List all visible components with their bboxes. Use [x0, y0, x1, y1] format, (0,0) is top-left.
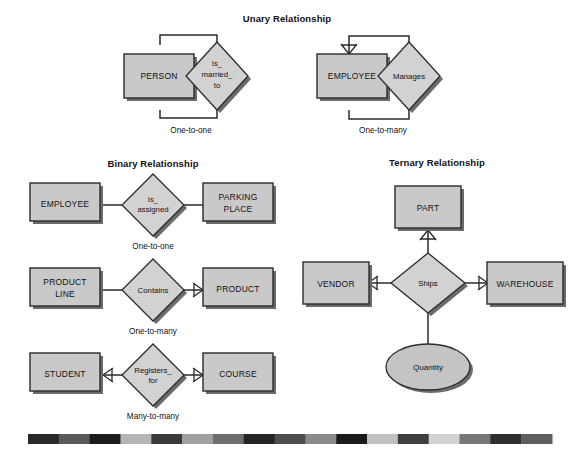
entity-parking-place-label-1: PARKING [218, 192, 257, 202]
color-strip-segment [28, 434, 59, 444]
cardinality-productline-product: One-to-many [129, 327, 178, 336]
registers-for-line-2: for [148, 376, 158, 385]
unary-example-person: PERSON Is_ married_ to One-to-one [124, 35, 251, 135]
unary-loop-bottom-person [160, 100, 217, 118]
section-title-ternary: Ternary Relationship [389, 157, 485, 168]
entity-part-label: PART [417, 203, 440, 213]
color-strip-segment [398, 434, 429, 444]
manages-label: Manages [393, 72, 425, 81]
er-diagram-figure: Unary Relationship PERSON Is_ married_ t… [0, 0, 575, 451]
entity-parking-place [203, 183, 273, 221]
color-strip-segment [59, 434, 90, 444]
relationship-registers-for [122, 344, 184, 406]
color-strip-segment [460, 434, 491, 444]
cardinality-employee-parking: One-to-one [132, 242, 174, 251]
color-strip-segment [213, 434, 244, 444]
is-married-to-line-2: married_ [202, 70, 233, 79]
entity-warehouse-label: WAREHOUSE [496, 279, 553, 289]
section-title-unary: Unary Relationship [243, 13, 331, 24]
color-strip-segment [429, 434, 460, 444]
is-married-to-line-3: to [214, 81, 221, 90]
cardinality-employee-manages: One-to-many [359, 126, 408, 135]
entity-vendor-label: VENDOR [317, 279, 355, 289]
color-strip-segment [305, 434, 336, 444]
entity-person-label: PERSON [140, 71, 177, 81]
entity-product-line [30, 268, 100, 306]
entity-employee-binary-label: EMPLOYEE [41, 199, 89, 209]
color-strip-segment [151, 434, 182, 444]
unary-example-employee: EMPLOYEE Manages One-to-many [317, 36, 443, 135]
binary-example-student-course: STUDENT Registers_ for COURSE Many-to-ma… [30, 344, 276, 421]
color-calibration-strip [28, 434, 553, 444]
entity-product-line-label-1: PRODUCT [43, 277, 86, 287]
color-strip-segment [90, 434, 121, 444]
is-assigned-line-2: assigned [137, 205, 168, 214]
color-strip-segment [336, 434, 367, 444]
attribute-quantity-label: Quantity [413, 363, 443, 372]
contains-label: Contains [138, 286, 169, 295]
cardinality-person-is-married-to: One-to-one [170, 126, 212, 135]
ships-label: Ships [418, 279, 438, 288]
color-strip-segment [275, 434, 306, 444]
entity-parking-place-label-2: PLACE [224, 204, 253, 214]
binary-example-employee-parking: EMPLOYEE Is_ assigned PARKING PLACE One-… [30, 174, 276, 251]
is-assigned-line-1: Is_ [148, 195, 159, 204]
entity-student-label: STUDENT [44, 369, 86, 379]
ternary-relationship-group: PART VENDOR WAREHOUSE Ships Quantity [303, 186, 566, 393]
entity-product-label: PRODUCT [216, 284, 259, 294]
binary-example-productline-product: PRODUCT LINE Contains PRODUCT One-to-man… [30, 259, 276, 336]
is-married-to-line-1: Is_ [212, 59, 223, 68]
cardinality-student-course: Many-to-many [127, 412, 180, 421]
color-strip-segment [490, 434, 521, 444]
color-strip-segment [120, 434, 151, 444]
section-title-binary: Binary Relationship [107, 158, 198, 169]
color-strip-segment [521, 434, 552, 444]
entity-product-line-label-2: LINE [55, 289, 75, 299]
entity-employee-unary-label: EMPLOYEE [328, 71, 376, 81]
er-diagram-canvas: Unary Relationship PERSON Is_ married_ t… [0, 0, 575, 451]
unary-loop-bottom-employee [349, 100, 409, 119]
color-strip-segment [367, 434, 398, 444]
color-strip-segment [244, 434, 275, 444]
entity-course-label: COURSE [219, 369, 257, 379]
registers-for-line-1: Registers_ [134, 366, 172, 375]
color-strip-segment [182, 434, 213, 444]
